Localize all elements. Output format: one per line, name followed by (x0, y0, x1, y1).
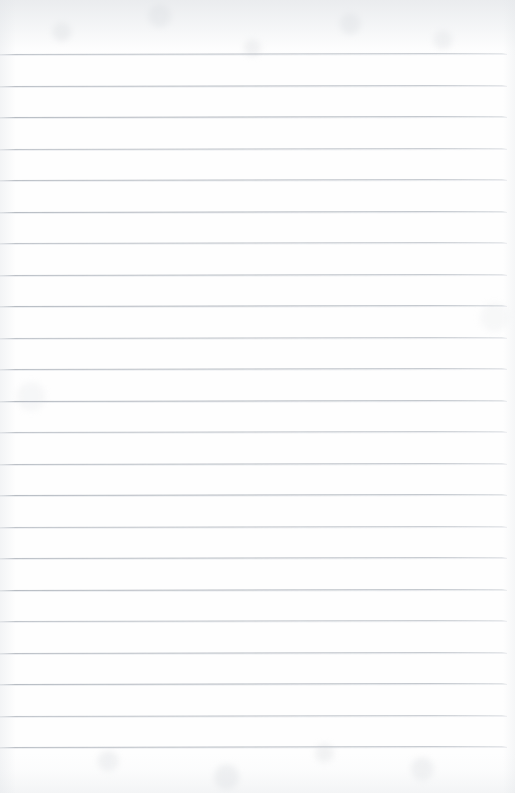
ruled-line (0, 525, 507, 527)
ruled-line (0, 746, 507, 748)
ruled-line (0, 714, 507, 716)
ruled-line (0, 588, 507, 590)
ruled-line (0, 620, 507, 622)
ruled-line (0, 494, 507, 496)
ruled-line (0, 651, 507, 653)
ruled-line (0, 116, 507, 118)
ruled-line (0, 336, 507, 338)
ruled-line (0, 399, 507, 401)
ruled-line (0, 179, 507, 181)
ruled-line (0, 210, 507, 212)
ruled-line (0, 462, 507, 464)
ruled-line (0, 53, 507, 55)
ruled-line (0, 84, 507, 86)
ruled-line (0, 147, 507, 149)
ruled-lines-group (0, 0, 515, 793)
ruled-line (0, 242, 507, 244)
ruled-line (0, 368, 507, 370)
ruled-line (0, 273, 507, 275)
ruled-line (0, 683, 507, 685)
scanned-page (0, 0, 515, 793)
ruled-line (0, 431, 507, 433)
ruled-line (0, 305, 507, 307)
ruled-line (0, 557, 507, 559)
